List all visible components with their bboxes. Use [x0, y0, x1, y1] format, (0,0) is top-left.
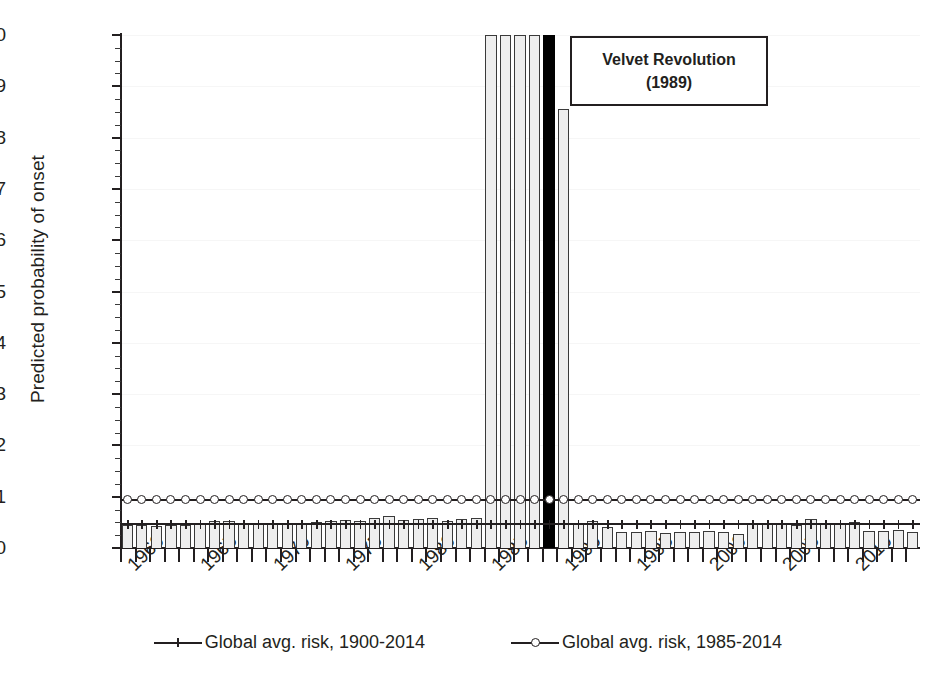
bar: [907, 532, 918, 548]
marker-circle: [210, 495, 219, 504]
x-tick: [265, 549, 267, 562]
marker-circle: [617, 495, 626, 504]
marker-circle: [632, 495, 641, 504]
marker-plus: [646, 520, 655, 529]
marker-circle: [661, 495, 670, 504]
marker-circle: [428, 495, 437, 504]
marker-circle: [152, 495, 161, 504]
marker-plus: [166, 520, 175, 529]
x-tick: [527, 549, 529, 562]
marker-circle: [472, 495, 481, 504]
marker-plus: [879, 520, 888, 529]
marker-circle: [588, 495, 597, 504]
annotation-velvet-revolution: Velvet Revolution (1989): [570, 36, 768, 106]
marker-plus: [370, 520, 379, 529]
x-tick: [164, 549, 166, 562]
marker-circle: [574, 495, 583, 504]
marker-circle: [414, 495, 423, 504]
chart-legend: Global avg. risk, 1900-2014Global avg. r…: [0, 632, 936, 653]
y-tick-label: 0.03: [0, 384, 6, 403]
marker-plus: [239, 520, 248, 529]
bar: [674, 532, 685, 548]
marker-plus: [719, 520, 728, 529]
marker-circle: [181, 495, 190, 504]
marker-circle: [821, 495, 830, 504]
y-tick-label: 0.09: [0, 76, 6, 95]
marker-plus: [268, 520, 277, 529]
marker-plus: [603, 520, 612, 529]
marker-plus: [472, 520, 481, 529]
marker-circle: [763, 495, 772, 504]
x-tick: [338, 549, 340, 562]
marker-circle: [443, 495, 452, 504]
marker-circle: [850, 495, 859, 504]
bar: [660, 533, 671, 548]
y-tick-label: 0.04: [0, 333, 6, 352]
marker-circle: [646, 495, 655, 504]
marker-plus: [588, 520, 597, 529]
y-tick-label: 0.05: [0, 282, 6, 301]
legend-label: Global avg. risk, 1900-2014: [205, 632, 425, 653]
x-tick: [629, 549, 631, 562]
marker-plus: [777, 520, 786, 529]
marker-circle: [908, 495, 917, 504]
plot-area: [120, 35, 920, 548]
y-tick-label: 0.10: [0, 25, 6, 44]
x-tick: [542, 549, 544, 562]
marker-plus: [501, 520, 510, 529]
x-tick: [891, 549, 893, 562]
y-tick-label: 0.00: [0, 538, 6, 557]
marker-circle: [603, 495, 612, 504]
marker-plus: [850, 520, 859, 529]
marker-plus: [137, 520, 146, 529]
x-tick: [818, 549, 820, 562]
marker-plus: [865, 520, 874, 529]
marker-circle: [123, 495, 132, 504]
bar: [485, 35, 496, 548]
x-tick: [615, 549, 617, 562]
legend-swatch-plus-icon: [154, 637, 202, 649]
y-tick-label: 0.06: [0, 230, 6, 249]
marker-plus: [690, 520, 699, 529]
y-axis-title: Predicted probability of onset: [27, 69, 49, 489]
marker-plus: [806, 520, 815, 529]
bar: [558, 109, 569, 548]
marker-circle: [806, 495, 815, 504]
x-tick: [382, 549, 384, 562]
x-tick: [484, 549, 486, 562]
marker-circle: [225, 495, 234, 504]
x-tick: [905, 549, 907, 562]
marker-plus: [123, 520, 132, 529]
marker-plus: [705, 520, 714, 529]
x-tick: [760, 549, 762, 562]
marker-plus: [196, 520, 205, 529]
bar: [631, 532, 642, 548]
marker-plus: [152, 520, 161, 529]
annotation-line-1: Velvet Revolution: [602, 48, 735, 71]
marker-plus: [748, 520, 757, 529]
marker-circle: [370, 495, 379, 504]
marker-circle: [297, 495, 306, 504]
x-tick: [455, 549, 457, 562]
bar: [151, 526, 162, 548]
x-tick: [687, 549, 689, 562]
marker-plus: [894, 520, 903, 529]
marker-plus: [356, 520, 365, 529]
x-tick: [673, 549, 675, 562]
marker-circle: [399, 495, 408, 504]
marker-plus: [254, 520, 263, 529]
x-tick: [396, 549, 398, 562]
x-tick: [775, 549, 777, 562]
y-tick-label: 0.01: [0, 487, 6, 506]
marker-plus: [181, 520, 190, 529]
bar: [703, 531, 714, 548]
marker-plus: [617, 520, 626, 529]
marker-circle: [545, 495, 554, 504]
marker-circle: [356, 495, 365, 504]
marker-circle: [734, 495, 743, 504]
bar: [645, 531, 656, 548]
marker-circle: [865, 495, 874, 504]
legend-item-2[interactable]: Global avg. risk, 1985-2014: [511, 632, 782, 653]
marker-plus: [414, 520, 423, 529]
legend-item-1[interactable]: Global avg. risk, 1900-2014: [154, 632, 425, 653]
